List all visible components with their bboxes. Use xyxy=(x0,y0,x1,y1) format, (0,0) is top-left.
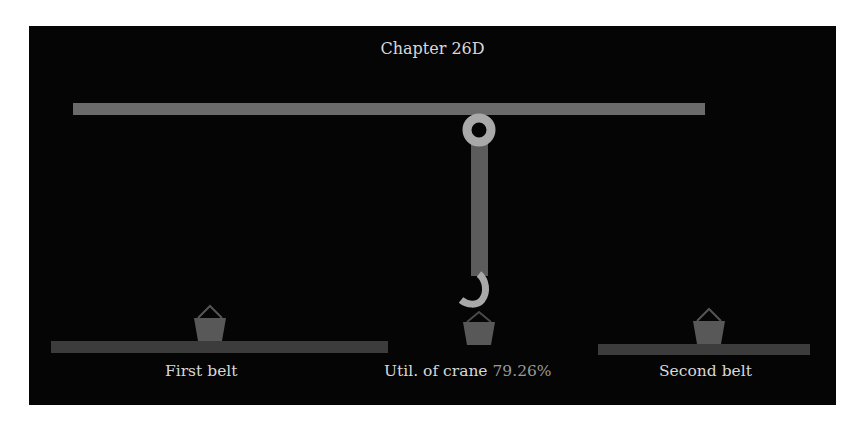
simulation-canvas: Chapter 26D First belt Util. of crane 79… xyxy=(29,26,836,405)
crane-beam xyxy=(73,103,705,115)
second-belt-label: Second belt xyxy=(659,362,752,380)
crane-utilization-label: Util. of crane 79.26% xyxy=(384,362,552,380)
first-belt-bucket-icon xyxy=(191,304,229,342)
second-belt-bucket-icon xyxy=(690,307,728,345)
utilization-prefix: Util. of crane xyxy=(384,362,488,380)
crane-rope xyxy=(471,142,488,276)
crane-hook-icon xyxy=(455,270,495,310)
utilization-value: 79.26% xyxy=(492,362,551,380)
pulley-icon xyxy=(461,112,497,148)
second-belt xyxy=(598,344,810,355)
first-belt xyxy=(51,341,388,353)
chapter-title: Chapter 26D xyxy=(29,39,836,58)
first-belt-label: First belt xyxy=(165,362,238,380)
crane-bucket-icon xyxy=(460,310,498,346)
